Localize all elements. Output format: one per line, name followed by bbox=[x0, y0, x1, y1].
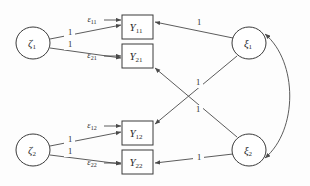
edge-label-xi2-Y21: 1 bbox=[196, 104, 200, 114]
error-label-eps22: ε22 bbox=[87, 157, 96, 168]
error-label-eps12: ε12 bbox=[87, 120, 96, 131]
edge-label-xi2-Y22: 1 bbox=[197, 152, 201, 162]
edge-label-zeta2-Y22: 1 bbox=[68, 146, 72, 156]
error-label-eps11: ε11 bbox=[87, 14, 96, 25]
edge-label-xi1-Y12: 1 bbox=[196, 77, 200, 87]
edge-zeta2-to-Y12 bbox=[50, 132, 121, 146]
edge-label-zeta2-Y12: 1 bbox=[68, 134, 72, 144]
error-label-eps21: ε21 bbox=[87, 50, 96, 61]
covariance-curve-xi1-xi2 bbox=[265, 34, 290, 158]
edge-label-zeta1-Y11: 1 bbox=[68, 27, 72, 37]
edge-zeta1-to-Y11 bbox=[50, 25, 121, 39]
diagram-canvas: ζ1 ζ2 ξ1 ξ2 Y11 Y21 Y12 bbox=[0, 0, 310, 186]
edge-label-xi1-Y11: 1 bbox=[197, 17, 201, 27]
edge-label-zeta1-Y21: 1 bbox=[68, 39, 72, 49]
edge-zeta1-to-Y21 bbox=[50, 48, 121, 58]
sem-path-diagram: ζ1 ζ2 ξ1 ξ2 Y11 Y21 Y12 bbox=[0, 0, 310, 186]
